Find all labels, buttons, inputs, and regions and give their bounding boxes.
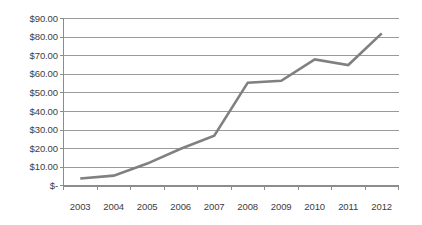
x-axis-label-2012: 2012 bbox=[362, 201, 402, 212]
line-chart-figure: $90.00 $80.00 $70.00 $60.00 $50.00 $40.0… bbox=[0, 0, 422, 225]
x-axis-tick-labels: 2003 2004 2005 2006 2007 2008 2009 2010 … bbox=[0, 0, 422, 225]
